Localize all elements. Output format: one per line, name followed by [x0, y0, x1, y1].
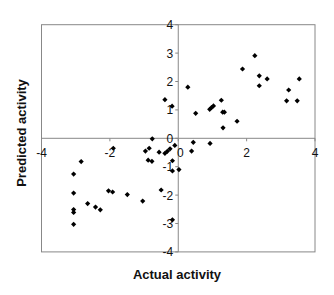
y-axis-title: Predicted activity — [14, 78, 29, 186]
x-tick-label: 2 — [243, 146, 250, 160]
x-tick-label: 0 — [177, 146, 184, 160]
y-tick-label: 2 — [167, 75, 174, 89]
x-tick-label: -4 — [36, 146, 47, 160]
y-tick-label: -2 — [163, 189, 174, 203]
x-tick-label: 4 — [312, 146, 319, 160]
y-tick-label: 0 — [167, 132, 174, 146]
y-tick-label: 3 — [167, 47, 174, 61]
scatter-chart: -4-2240 -4-3-2-101234 Actual activity Pr… — [0, 0, 334, 295]
y-tick-label: -4 — [163, 245, 174, 259]
x-axis-title: Actual activity — [133, 267, 222, 282]
y-tick-label: 4 — [167, 18, 174, 32]
